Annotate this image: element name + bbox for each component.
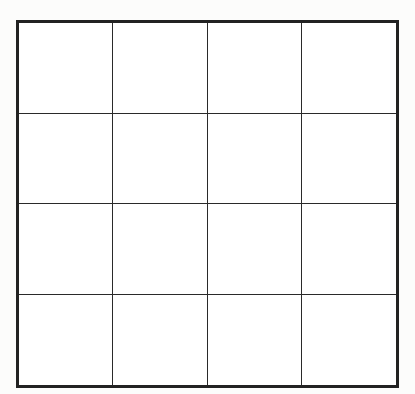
grid-cell-r3-c3 — [208, 204, 302, 295]
grid-cell-r2-c4 — [302, 114, 396, 205]
grid-cell-r3-c2 — [113, 204, 207, 295]
grid-cell-r1-c3 — [208, 23, 302, 114]
empty-grid — [16, 20, 399, 388]
grid-cell-r4-c3 — [208, 295, 302, 386]
grid-cell-r1-c2 — [113, 23, 207, 114]
grid-cell-r3-c1 — [19, 204, 113, 295]
page — [0, 0, 415, 394]
grid-cell-r2-c2 — [113, 114, 207, 205]
grid-cell-r4-c2 — [113, 295, 207, 386]
grid-cell-r4-c1 — [19, 295, 113, 386]
grid-cell-r1-c1 — [19, 23, 113, 114]
grid-cell-r2-c1 — [19, 114, 113, 205]
grid-cell-r4-c4 — [302, 295, 396, 386]
grid-cell-r2-c3 — [208, 114, 302, 205]
grid-cell-r1-c4 — [302, 23, 396, 114]
grid-cell-r3-c4 — [302, 204, 396, 295]
